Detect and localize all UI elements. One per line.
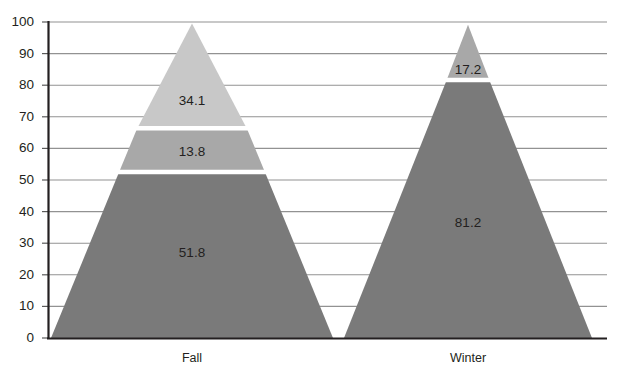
y-tick-label-100: 100 xyxy=(0,15,34,29)
pyramid-chart: 100 90 80 70 60 50 40 30 20 10 0 34.1 13… xyxy=(0,0,618,384)
value-label-fall-middle: 13.8 xyxy=(162,145,222,159)
y-tick-label-40: 40 xyxy=(0,205,34,219)
y-tick-label-80: 80 xyxy=(0,78,34,92)
y-tick-label-90: 90 xyxy=(0,47,34,61)
fall-segment-top xyxy=(137,24,248,130)
value-label-winter-bottom: 81.2 xyxy=(438,216,498,230)
y-axis-ticks xyxy=(42,22,48,338)
y-tick-label-10: 10 xyxy=(0,299,34,313)
x-category-label-winter: Winter xyxy=(428,352,508,365)
pyramid-fall xyxy=(51,24,333,339)
y-tick-label-50: 50 xyxy=(0,173,34,187)
x-category-label-fall: Fall xyxy=(152,352,232,365)
chart-plot-area xyxy=(0,0,618,384)
winter-segment-bottom xyxy=(344,81,592,338)
y-tick-label-70: 70 xyxy=(0,110,34,124)
value-label-fall-top: 34.1 xyxy=(162,94,222,108)
y-tick-label-30: 30 xyxy=(0,236,34,250)
y-tick-label-60: 60 xyxy=(0,141,34,155)
y-tick-label-20: 20 xyxy=(0,268,34,282)
value-label-fall-bottom: 51.8 xyxy=(162,246,222,260)
value-label-winter-top: 17.2 xyxy=(438,63,498,77)
y-tick-label-0: 0 xyxy=(0,331,34,345)
